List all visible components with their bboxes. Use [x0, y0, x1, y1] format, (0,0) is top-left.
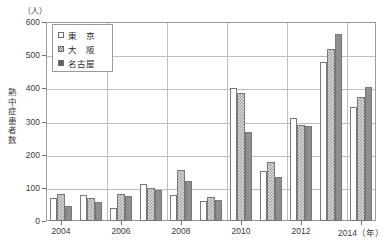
x-axis-tick-mark [181, 221, 182, 225]
bar-group [226, 22, 256, 221]
x-axis-tick-label: 2008 [151, 226, 211, 236]
bar-group [256, 22, 286, 221]
bar-tokyo-2012 [290, 118, 297, 221]
bar-osaka-2009 [207, 197, 214, 221]
bar-osaka-2012 [297, 125, 304, 221]
x-axis-tick-mark [301, 221, 302, 225]
legend-swatch-tokyo-icon [58, 32, 64, 38]
y-axis-tick-mark [42, 221, 46, 222]
x-axis-tick-mark [121, 221, 122, 225]
x-axis-tick-mark [61, 221, 62, 225]
bar-osaka-2007 [147, 188, 154, 221]
legend-item-tokyo: 東 京 [58, 28, 112, 42]
bar-osaka-2011 [267, 162, 274, 221]
y-axis-unit-label: （人） [23, 5, 47, 16]
bar-tokyo-2004 [50, 198, 57, 221]
x-axis-tick-mark [241, 221, 242, 225]
bar-osaka-2013 [327, 49, 334, 221]
bar-osaka-2006 [117, 194, 124, 221]
heatstroke-patients-bar-chart: （人） 熱中症患者数 0100200300400500600 200420062… [0, 0, 384, 250]
bar-osaka-2004 [57, 194, 64, 221]
bar-group [346, 22, 376, 221]
legend-label-tokyo: 東 京 [68, 29, 95, 41]
x-axis-tick-label: 2004 [31, 226, 91, 236]
bar-nagoya-2005 [95, 202, 102, 221]
legend-label-nagoya: 名古屋 [68, 57, 95, 69]
bar-nagoya-2008 [185, 181, 192, 221]
y-axis-tick-label: 400 [6, 83, 40, 93]
bar-nagoya-2013 [335, 34, 342, 221]
legend-swatch-osaka-icon [58, 46, 64, 52]
bar-nagoya-2010 [245, 132, 252, 221]
x-axis-tick-label: 2014（年） [331, 226, 384, 238]
bar-nagoya-2004 [65, 206, 72, 221]
legend-swatch-nagoya-icon [58, 60, 64, 66]
bar-group [166, 22, 196, 221]
x-axis-tick-label: 2010 [211, 226, 271, 236]
legend-item-nagoya: 名古屋 [58, 56, 112, 70]
y-axis-tick-label: 500 [6, 50, 40, 60]
bar-tokyo-2008 [170, 195, 177, 221]
x-axis-tick-label: 2012 [271, 226, 331, 236]
y-axis-tick-label: 200 [6, 150, 40, 160]
bar-nagoya-2009 [215, 200, 222, 221]
bar-osaka-2008 [177, 170, 184, 221]
bar-nagoya-2011 [275, 177, 282, 221]
bar-tokyo-2011 [260, 171, 267, 221]
bar-osaka-2005 [87, 198, 94, 221]
bar-tokyo-2005 [80, 195, 87, 221]
bar-group [136, 22, 166, 221]
bar-group [196, 22, 226, 221]
legend-label-osaka: 大 阪 [68, 43, 95, 55]
bar-osaka-2014 [357, 97, 364, 221]
y-axis-tick-label: 100 [6, 183, 40, 193]
bar-group [316, 22, 346, 221]
bar-nagoya-2012 [305, 126, 312, 221]
y-axis-tick-label: 300 [6, 117, 40, 127]
bar-nagoya-2006 [125, 196, 132, 221]
legend-item-osaka: 大 阪 [58, 42, 112, 56]
legend: 東 京 大 阪 名古屋 [52, 24, 113, 72]
bar-nagoya-2014 [365, 87, 372, 221]
bar-nagoya-2007 [155, 190, 162, 222]
x-axis-tick-mark [361, 221, 362, 225]
bar-osaka-2010 [237, 93, 244, 221]
bar-tokyo-2007 [140, 184, 147, 221]
bar-tokyo-2010 [230, 88, 237, 221]
y-axis-tick-label: 600 [6, 17, 40, 27]
bar-tokyo-2013 [320, 62, 327, 221]
bar-tokyo-2009 [200, 201, 207, 221]
bar-tokyo-2006 [110, 208, 117, 221]
bar-group [286, 22, 316, 221]
x-axis-tick-label: 2006 [91, 226, 151, 236]
bar-tokyo-2014 [350, 107, 357, 221]
y-axis-tick-label: 0 [6, 216, 40, 226]
